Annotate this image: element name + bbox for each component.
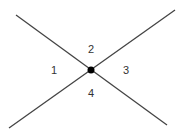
intersection-point bbox=[88, 67, 95, 74]
region-label-2: 2 bbox=[88, 44, 94, 55]
region-label-1: 1 bbox=[51, 65, 57, 76]
crossing-lines-diagram bbox=[0, 0, 187, 137]
region-label-4: 4 bbox=[88, 88, 94, 99]
region-label-3: 3 bbox=[123, 65, 129, 76]
